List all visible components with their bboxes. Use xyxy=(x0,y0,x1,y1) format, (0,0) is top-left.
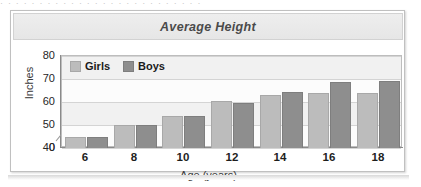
chart-figure: · · · · · · · · · · · · · · · · · · · · … xyxy=(0,0,421,187)
bar-boys-age-14 xyxy=(282,92,303,148)
page-bottom-shadow xyxy=(8,175,409,180)
legend-item-girls: Girls xyxy=(70,61,110,72)
chart-title-bar: Average Height xyxy=(13,13,403,40)
x-tick-18: 18 xyxy=(358,151,398,163)
bar-girls-age-14 xyxy=(260,95,281,148)
y-tick-50: 50 xyxy=(31,119,55,129)
bar-girls-age-18 xyxy=(357,93,378,148)
legend-label-boys: Boys xyxy=(138,61,165,72)
y-tick-80: 80 xyxy=(31,50,55,60)
y-tick-70: 70 xyxy=(31,73,55,83)
bar-girls-age-8 xyxy=(114,125,135,148)
y-tick-60: 60 xyxy=(31,96,55,106)
legend-swatch-girls xyxy=(70,61,81,72)
bar-boys-age-10 xyxy=(184,116,205,148)
gridline xyxy=(62,79,401,80)
y-tick-0: 0 xyxy=(31,142,55,152)
bar-boys-age-12 xyxy=(233,103,254,148)
bar-boys-age-8 xyxy=(136,125,157,148)
x-tick-10: 10 xyxy=(163,151,203,163)
x-tick-12: 12 xyxy=(212,151,252,163)
plot-area: Girls Boys xyxy=(61,55,402,147)
bar-boys-age-18 xyxy=(379,81,400,148)
bar-girls-age-12 xyxy=(211,101,232,148)
bar-girls-age-16 xyxy=(308,93,329,148)
page-edge-artifact: · · · · · · · · · · · · · · · · · · · · … xyxy=(0,0,421,6)
bar-girls-age-10 xyxy=(162,116,183,148)
legend-swatch-boys xyxy=(123,61,134,72)
gridline xyxy=(62,56,401,57)
legend-label-girls: Girls xyxy=(85,61,110,72)
bar-girls-age-6 xyxy=(65,137,86,148)
x-tick-14: 14 xyxy=(260,151,300,163)
gridline xyxy=(62,148,401,149)
chart-card: Average Height Inches 80706050400 Girls … xyxy=(10,10,405,172)
x-tick-8: 8 xyxy=(114,151,154,163)
x-tick-6: 6 xyxy=(65,151,105,163)
chart-title: Average Height xyxy=(160,20,256,34)
chart-legend: Girls Boys xyxy=(70,59,173,73)
bar-boys-age-16 xyxy=(330,82,351,148)
bar-boys-age-6 xyxy=(87,137,108,148)
legend-item-boys: Boys xyxy=(123,61,165,72)
x-tick-16: 16 xyxy=(309,151,349,163)
